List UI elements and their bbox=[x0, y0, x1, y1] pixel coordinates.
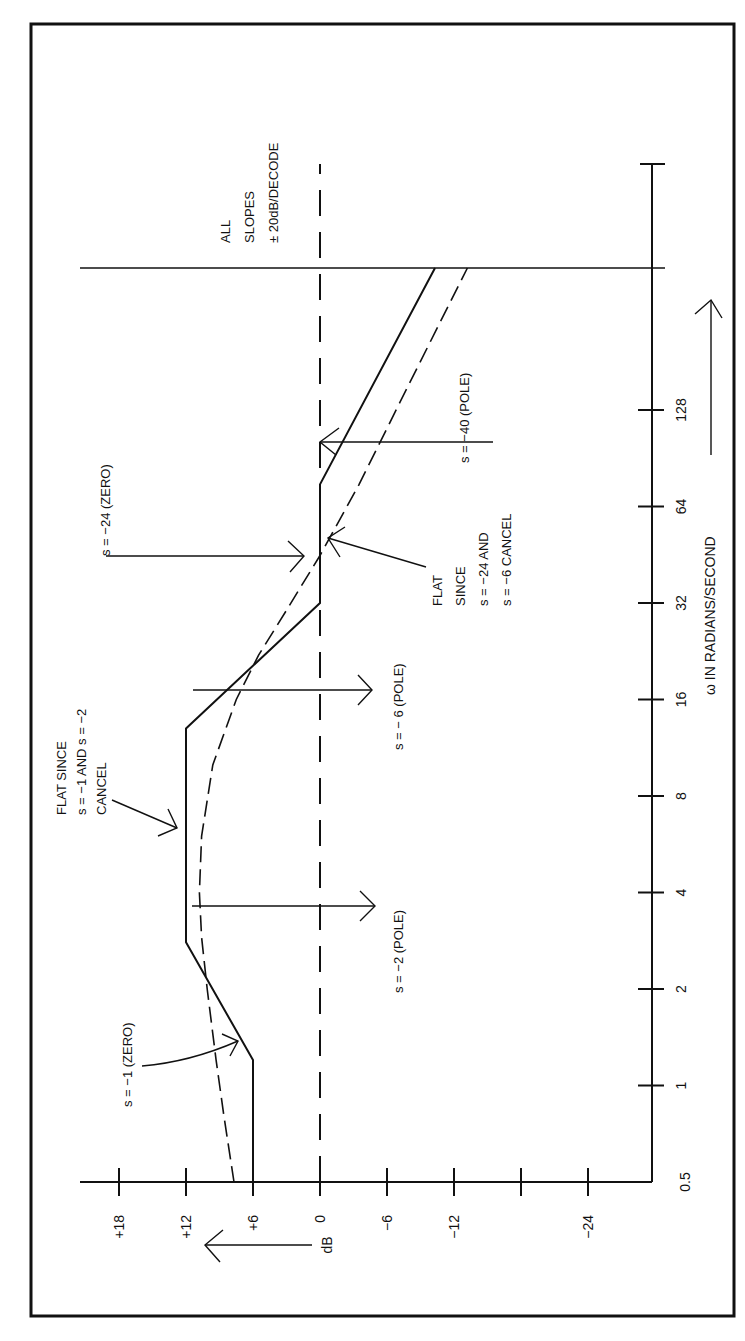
db-tick-label: 0 bbox=[312, 1215, 328, 1223]
anno-zero-1: s = −1 (ZERO) bbox=[120, 1022, 135, 1107]
db-tick-label: −6 bbox=[379, 1215, 395, 1231]
frequency-tick-label: 64 bbox=[673, 499, 689, 515]
anno-pole-2: s = −2 (POLE) bbox=[391, 910, 406, 993]
anno-zero-24: s = −24 (ZERO) bbox=[98, 464, 113, 556]
frequency-tick-label: 32 bbox=[673, 595, 689, 611]
frequency-axis-title: ω IN RADIANS/SECOND bbox=[695, 300, 722, 695]
anno-all-slopes-3: ± 20dB/DECODE bbox=[266, 142, 281, 243]
frequency-ticks: 0.51248163264128 bbox=[638, 398, 693, 1192]
actual-response-curve bbox=[199, 268, 467, 1182]
db-tick-label: +12 bbox=[178, 1215, 194, 1239]
anno-flat1-1: FLAT SINCE bbox=[54, 741, 69, 815]
frequency-tick-label: 2 bbox=[673, 985, 689, 993]
db-unit-label: dB bbox=[319, 1236, 335, 1253]
anno-pole-40: s = −40 (POLE) bbox=[457, 373, 472, 463]
db-unit-arrow: dB bbox=[205, 1230, 335, 1262]
anno-flat2-1: FLAT bbox=[430, 575, 445, 606]
anno-flat2-4: s = −6 CANCEL bbox=[499, 514, 514, 607]
frequency-axis-title-text: ω IN RADIANS/SECOND bbox=[702, 536, 718, 695]
db-tick-label: +6 bbox=[245, 1215, 261, 1231]
anno-pole-6: s = − 6 (POLE) bbox=[391, 663, 406, 750]
bode-plot: +18+12+60−6−12−24 0.51248163264128 dB ω … bbox=[0, 0, 745, 1341]
frequency-tick-label: 4 bbox=[673, 888, 689, 896]
frequency-tick-label: 16 bbox=[673, 692, 689, 708]
anno-flat1-2: s = −1 AND s = −2 bbox=[74, 709, 89, 815]
anno-flat2-2: SINCE bbox=[453, 566, 468, 606]
frequency-tick-label: 0.5 bbox=[677, 1172, 693, 1192]
anno-flat1-3: CANCEL bbox=[94, 762, 109, 815]
frequency-tick-label: 128 bbox=[673, 398, 689, 422]
anno-all-slopes-1: ALL bbox=[218, 220, 233, 243]
db-tick-label: +18 bbox=[111, 1215, 127, 1239]
figure-frame bbox=[31, 24, 734, 1316]
frequency-tick-label: 8 bbox=[673, 792, 689, 800]
db-tick-label: −24 bbox=[580, 1215, 596, 1239]
annotations: ALL SLOPES ± 20dB/DECODE s = −40 (POLE) … bbox=[54, 142, 514, 1107]
anno-flat2-3: s = −24 AND bbox=[476, 532, 491, 606]
series-layer bbox=[186, 164, 467, 1182]
db-tick-label: −12 bbox=[446, 1215, 462, 1239]
anno-all-slopes-2: SLOPES bbox=[242, 191, 257, 243]
db-ticks: +18+12+60−6−12−24 bbox=[111, 1168, 596, 1239]
frequency-tick-label: 1 bbox=[673, 1081, 689, 1089]
